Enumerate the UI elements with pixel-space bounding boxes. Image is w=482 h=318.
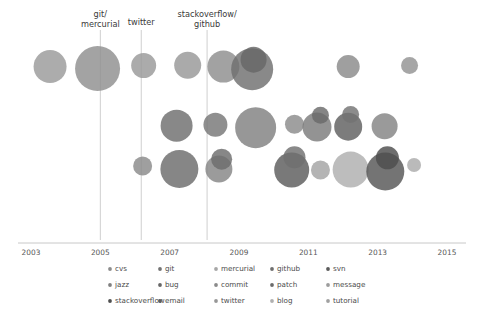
legend-marker-email[interactable] — [158, 299, 162, 303]
annotation-label-2-line2: github — [194, 19, 220, 29]
legend-marker-jazz[interactable] — [108, 283, 112, 287]
legend-marker-svn[interactable] — [326, 267, 330, 271]
legend-label-bug[interactable]: bug — [165, 280, 179, 289]
annotation-labels-group: git/mercurialtwitterstackoverflow/github — [81, 9, 237, 29]
legend-label-message[interactable]: message — [333, 280, 366, 289]
bubble-blog-28 — [407, 158, 421, 172]
bubble-blog-23 — [283, 146, 305, 168]
bubble-email-19 — [160, 150, 198, 188]
bubble-mercurial-2 — [131, 53, 156, 78]
x-tick-label-2015: 2015 — [438, 248, 457, 257]
legend-marker-bug[interactable] — [158, 283, 162, 287]
bubble-cvs-0 — [34, 50, 67, 83]
annotation-label-0: git/ — [94, 9, 108, 19]
legend-label-mercurial[interactable]: mercurial — [221, 264, 255, 273]
legend-marker-twitter[interactable] — [214, 299, 218, 303]
x-tick-label-2009: 2009 — [230, 248, 249, 257]
legend-marker-stackoverflow[interactable] — [108, 299, 112, 303]
bubble-message-14 — [312, 107, 329, 124]
bubble-bug-9 — [161, 110, 193, 142]
bubble-git-3 — [174, 52, 201, 79]
bubble-bug-10 — [203, 113, 227, 137]
bubble-chart: 2003200520072009201120132015 git/mercuri… — [0, 0, 482, 318]
x-tick-label-2013: 2013 — [368, 248, 387, 257]
bubble-cvs-1 — [75, 46, 120, 91]
bubble-svn-7 — [337, 55, 360, 78]
legend-marker-message[interactable] — [326, 283, 330, 287]
bubble-svn-8 — [401, 57, 418, 74]
legend-label-cvs[interactable]: cvs — [115, 264, 127, 273]
legend-label-commit[interactable]: commit — [221, 280, 248, 289]
bubble-tutorial-24 — [311, 160, 330, 179]
bubble-commit-11 — [235, 107, 276, 148]
bubble-twitter-21 — [211, 149, 232, 170]
legend-label-svn[interactable]: svn — [333, 264, 346, 273]
chart-canvas: 2003200520072009201120132015 git/mercuri… — [0, 0, 482, 318]
legend-label-patch[interactable]: patch — [277, 280, 297, 289]
legend-marker-blog[interactable] — [270, 299, 274, 303]
x-tick-label-2005: 2005 — [91, 248, 110, 257]
legend-marker-tutorial[interactable] — [326, 299, 330, 303]
annotation-label-1: twitter — [128, 17, 156, 27]
legend-marker-cvs[interactable] — [108, 267, 112, 271]
legend-marker-commit[interactable] — [214, 283, 218, 287]
legend-label-jazz[interactable]: jazz — [114, 280, 129, 289]
legend-marker-mercurial[interactable] — [214, 267, 218, 271]
legend-marker-github[interactable] — [270, 267, 274, 271]
legend-label-email[interactable]: email — [165, 296, 185, 305]
x-axis-group: 2003200520072009201120132015 — [18, 243, 466, 257]
legend-group: cvsgitmercurialgithubsvnjazzbugcommitpat… — [108, 264, 366, 305]
legend-label-twitter[interactable]: twitter — [221, 296, 245, 305]
x-tick-label-2003: 2003 — [22, 248, 41, 257]
bubble-github-6 — [241, 47, 267, 73]
x-tick-label-2011: 2011 — [299, 248, 318, 257]
bubble-email-18 — [133, 157, 152, 176]
bubble-patch-12 — [285, 115, 304, 134]
legend-label-stackoverflow[interactable]: stackoverflow — [115, 296, 165, 305]
legend-marker-git[interactable] — [158, 267, 162, 271]
legend-label-tutorial[interactable]: tutorial — [333, 296, 359, 305]
bubble-jazz-17 — [372, 113, 398, 139]
legend-marker-patch[interactable] — [270, 283, 274, 287]
bubble-stackoverflow-27 — [376, 146, 399, 169]
bubble-jazz-16 — [342, 106, 359, 123]
bubble-tutorial-25 — [333, 152, 369, 188]
x-tick-label-2007: 2007 — [160, 248, 179, 257]
annotation-label-0-line2: mercurial — [81, 19, 120, 29]
legend-label-github[interactable]: github — [277, 264, 300, 273]
annotation-label-2: stackoverflow/ — [177, 9, 237, 19]
legend-label-git[interactable]: git — [165, 264, 175, 273]
legend-label-blog[interactable]: blog — [277, 296, 293, 305]
bubbles-group — [34, 46, 422, 191]
